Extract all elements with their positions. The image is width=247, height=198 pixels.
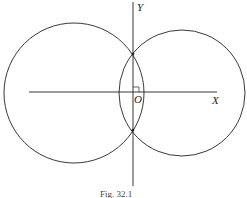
left-circle [4,23,144,163]
figure-caption: Fig. 32.1 [100,189,132,198]
right-angle-mark [133,87,139,92]
origin-label: O [134,93,142,105]
y-axis-label: Y [137,1,143,13]
x-axis-label: X [212,94,219,106]
upper-intersection-point [132,53,135,56]
lower-intersection-point [132,129,135,132]
two-intersecting-circles-diagram [0,0,247,198]
